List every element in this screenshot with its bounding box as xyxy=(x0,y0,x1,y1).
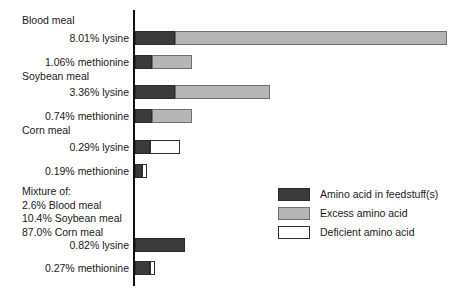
mixture-line-blood-meal: 2.6% Blood meal xyxy=(22,199,122,213)
bar-corn-meal-lysine xyxy=(135,140,180,154)
row-label-soybean-meal-lysine: 3.36% lysine xyxy=(69,86,129,98)
bar-segment-present xyxy=(135,164,142,178)
legend-swatch-present-icon xyxy=(278,188,310,201)
bar-segment-present xyxy=(135,109,152,123)
legend-swatch-deficient-icon xyxy=(278,226,310,239)
row-label-soybean-meal-methionine: 0.74% methionine xyxy=(45,110,129,122)
group-header-blood-meal: Blood meal xyxy=(22,14,75,26)
row-label-blood-meal-methionine: 1.06% methionine xyxy=(45,56,129,68)
bar-segment-excess xyxy=(152,55,192,69)
bar-segment-present xyxy=(135,55,152,69)
bar-segment-deficient xyxy=(150,261,155,275)
bar-segment-deficient xyxy=(142,164,147,178)
row-label-corn-meal-lysine: 0.29% lysine xyxy=(69,141,129,153)
bar-segment-present xyxy=(135,85,175,99)
row-label-mixture-lysine: 0.82% lysine xyxy=(69,239,129,251)
group-header-corn-meal: Corn meal xyxy=(22,124,70,136)
row-label-corn-meal-methionine: 0.19% methionine xyxy=(45,165,129,177)
bar-segment-deficient xyxy=(150,140,180,154)
bar-soybean-meal-lysine xyxy=(135,85,270,99)
bar-segment-excess xyxy=(152,109,192,123)
amino-acid-bar-chart: Blood meal 8.01% lysine 1.06% methionine… xyxy=(0,0,471,297)
mixture-line-corn-meal: 87.0% Corn meal xyxy=(22,226,122,240)
bar-segment-present xyxy=(135,31,175,45)
mixture-description: Mixture of: 2.6% Blood meal 10.4% Soybea… xyxy=(22,185,122,239)
bar-segment-excess xyxy=(175,31,447,45)
bar-soybean-meal-methionine xyxy=(135,109,192,123)
bar-corn-meal-methionine xyxy=(135,164,147,178)
row-label-mixture-methionine: 0.27% methionine xyxy=(45,262,129,274)
bar-blood-meal-methionine xyxy=(135,55,192,69)
bar-segment-present xyxy=(135,261,150,275)
bar-mixture-methionine xyxy=(135,261,155,275)
row-label-blood-meal-lysine: 8.01% lysine xyxy=(69,32,129,44)
bar-segment-excess xyxy=(175,85,270,99)
mixture-line-soybean-meal: 10.4% Soybean meal xyxy=(22,212,122,226)
bar-mixture-lysine xyxy=(135,238,185,252)
legend-label-present: Amino acid in feedstuff(s) xyxy=(320,187,438,201)
group-header-soybean-meal: Soybean meal xyxy=(22,70,89,82)
mixture-line-title: Mixture of: xyxy=(22,185,122,199)
bar-blood-meal-lysine xyxy=(135,31,447,45)
legend-swatch-excess-icon xyxy=(278,207,310,220)
bar-segment-present xyxy=(135,140,150,154)
legend-label-deficient: Deficient amino acid xyxy=(320,225,415,239)
bar-segment-present xyxy=(135,238,185,252)
legend-label-excess: Excess amino acid xyxy=(320,206,408,220)
